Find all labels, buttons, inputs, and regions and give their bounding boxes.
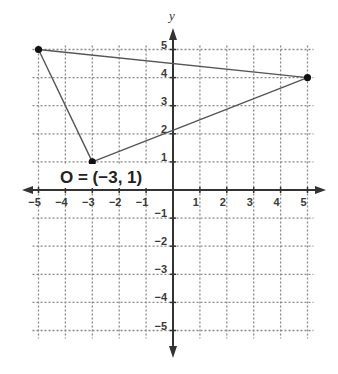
point-label: O = (−3, 1)	[60, 168, 142, 187]
vertex-point	[35, 46, 42, 53]
x-tick-label: −3	[82, 196, 95, 208]
y-axis-label: y	[167, 8, 175, 23]
y-axis-down-arrow-icon	[169, 346, 177, 358]
y-tick-label: 5	[161, 39, 167, 51]
y-tick-label: −2	[154, 235, 167, 247]
y-tick-label: −1	[154, 207, 167, 219]
x-axis-left-arrow-icon	[22, 186, 33, 194]
x-tick-label: −2	[109, 196, 122, 208]
coordinate-plane: −5−4−3−2−112345−5−4−3−2−112345 O = (−3, …	[0, 0, 338, 374]
x-tick-label: −4	[55, 196, 68, 208]
vertex-point	[304, 74, 311, 81]
point-annotation: O = (−3, 1)	[57, 164, 155, 188]
y-tick-label: −5	[154, 320, 167, 332]
y-tick-label: 4	[161, 67, 168, 79]
x-axis-right-arrow-icon	[315, 186, 326, 194]
y-axis-up-arrow-icon	[169, 28, 177, 40]
x-tick-label: 1	[193, 196, 199, 208]
y-tick-label: −4	[154, 291, 167, 303]
x-tick-label: 3	[247, 196, 253, 208]
x-tick-label: 4	[274, 196, 281, 208]
x-tick-label: −5	[28, 196, 41, 208]
y-tick-label: 1	[161, 151, 167, 163]
y-tick-label: −3	[154, 263, 167, 275]
x-tick-label: 5	[300, 196, 306, 208]
y-tick-label: 3	[161, 95, 167, 107]
x-tick-label: 2	[220, 196, 226, 208]
x-tick-label: −1	[136, 196, 149, 208]
